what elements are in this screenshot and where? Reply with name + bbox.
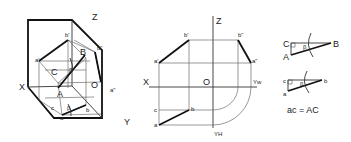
orthographic-projection: Z X O Yw YH a' b' b" a" c b a bbox=[143, 16, 262, 137]
label-b-prime: b' bbox=[184, 32, 188, 38]
equation-ac-equals-AC: ac = AC bbox=[287, 105, 319, 115]
label-beta-upper: β bbox=[69, 67, 73, 73]
transfer-arc-inner bbox=[213, 87, 238, 110]
label-a: a bbox=[283, 91, 287, 97]
label-origin: O bbox=[203, 77, 210, 87]
label-z: Z bbox=[216, 16, 222, 26]
label-beta-upper: β bbox=[303, 44, 307, 50]
label-origin: O bbox=[91, 80, 98, 90]
label-beta-lower: β bbox=[67, 105, 71, 111]
ab-line bbox=[62, 105, 86, 115]
label-b: b bbox=[86, 107, 90, 113]
label-yh: YH bbox=[214, 131, 222, 137]
label-C: C bbox=[283, 39, 290, 49]
label-beta-lower: β bbox=[300, 81, 304, 87]
label-yw: Yw bbox=[253, 79, 262, 85]
label-b: b bbox=[191, 106, 195, 112]
true-length-triangles: C A B β c a b β ac = AC bbox=[283, 33, 339, 115]
label-a: a bbox=[154, 122, 158, 128]
a-prime-b-prime-line bbox=[39, 40, 68, 61]
label-x: X bbox=[19, 82, 25, 92]
right-angle-marker bbox=[291, 43, 295, 47]
label-a-dprime: a" bbox=[110, 87, 115, 93]
label-x: X bbox=[143, 77, 149, 87]
label-a-prime: a' bbox=[35, 57, 39, 63]
x-axis bbox=[28, 86, 72, 87]
label-A: A bbox=[57, 89, 63, 99]
label-z: Z bbox=[92, 12, 98, 22]
transfer-arc-outer bbox=[213, 87, 251, 125]
a-dprime-b-dprime-line bbox=[95, 52, 101, 82]
right-angle-marker bbox=[288, 80, 292, 84]
label-b-dprime: b" bbox=[238, 32, 243, 38]
label-B: B bbox=[80, 47, 86, 57]
label-y: Y bbox=[124, 117, 130, 127]
label-b-dprime: b" bbox=[97, 45, 102, 51]
a-dprime-b-dprime-line bbox=[238, 40, 251, 63]
beta-arc-lower bbox=[304, 71, 309, 93]
beta-arc-upper bbox=[308, 33, 313, 57]
label-a-dprime: a" bbox=[252, 58, 257, 64]
label-c: c bbox=[154, 107, 157, 113]
ab-line bbox=[159, 110, 189, 125]
label-a-prime: a' bbox=[154, 58, 158, 64]
label-C: C bbox=[51, 67, 58, 77]
isometric-view: Z X Y O B C A a' b' b" a" c b a β β bbox=[19, 12, 130, 127]
label-b: b bbox=[324, 78, 328, 84]
projection-diagram: Z X Y O B C A a' b' b" a" c b a β β Z X bbox=[0, 0, 351, 142]
label-A: A bbox=[283, 52, 289, 62]
label-b-prime: b' bbox=[65, 32, 69, 38]
a-prime-b-prime-line bbox=[159, 40, 189, 63]
label-c: c bbox=[283, 78, 286, 84]
label-B: B bbox=[333, 39, 339, 49]
label-c: c bbox=[51, 105, 54, 111]
y-axis bbox=[72, 86, 102, 118]
